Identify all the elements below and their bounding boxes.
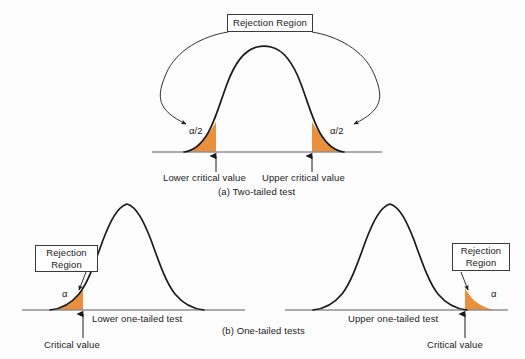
panel-b-right-critical-value-label: Critical value (427, 339, 483, 350)
panel-a-rejection-region-box: Rejection Region (227, 14, 313, 32)
panel-a-alpha-left-label: α/2 (189, 125, 202, 136)
panel-b-right-rejection-region-line2: Region (466, 257, 497, 269)
panel-b-left-leader (79, 272, 86, 290)
panel-b-right-rejection-region-box: Rejection Region (452, 243, 510, 271)
panel-b-left-rejection-region-box: Rejection Region (35, 245, 98, 272)
panel-b-left-rejection-region-line2: Region (51, 259, 82, 271)
panel-a-rejection-region-label: Rejection Region (233, 17, 307, 29)
panel-b-left-test-label: Lower one-tailed test (92, 313, 182, 324)
panel-a-graphics (152, 32, 382, 172)
panel-a-alpha-right-label: α/2 (330, 125, 343, 136)
panel-b-left-rejection-region-line1: Rejection (46, 247, 87, 259)
panel-b-right-curve (313, 204, 467, 310)
panel-a-upper-critical-value-label: Upper critical value (262, 172, 345, 183)
statistics-figure: Rejection Region α/2 α/2 Lower critical … (0, 0, 525, 359)
panel-b-right-alpha-label: α (491, 288, 497, 299)
panel-a-caption: (a) Two-tailed test (218, 186, 295, 197)
panel-a-arrow-right (312, 32, 380, 124)
panel-b-right-rejection-region-line1: Rejection (461, 245, 502, 257)
panel-b-right-test-label: Upper one-tailed test (348, 313, 438, 324)
panel-b-caption: (b) One-tailed tests (222, 325, 305, 336)
panel-b-left-critical-value-label: Critical value (44, 339, 100, 350)
panel-b-left-alpha-label: α (62, 288, 68, 299)
panel-a-lower-critical-value-label: Lower critical value (163, 172, 246, 183)
panel-b-right-leader (461, 272, 468, 290)
